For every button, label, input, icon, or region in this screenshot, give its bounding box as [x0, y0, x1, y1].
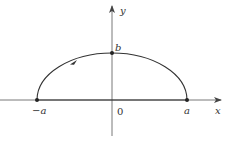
point-neg-a: [35, 98, 39, 102]
x-axis-label: x: [215, 105, 221, 116]
point-a: [185, 98, 189, 102]
ellipse-diagram: y b −a 0 a x: [0, 0, 226, 142]
point-b-label: b: [115, 42, 121, 53]
y-axis-label: y: [119, 5, 126, 16]
origin-label: 0: [117, 106, 123, 117]
point-neg-a-label: −a: [32, 105, 46, 116]
point-b: [110, 51, 114, 55]
point-a-label: a: [184, 105, 190, 116]
